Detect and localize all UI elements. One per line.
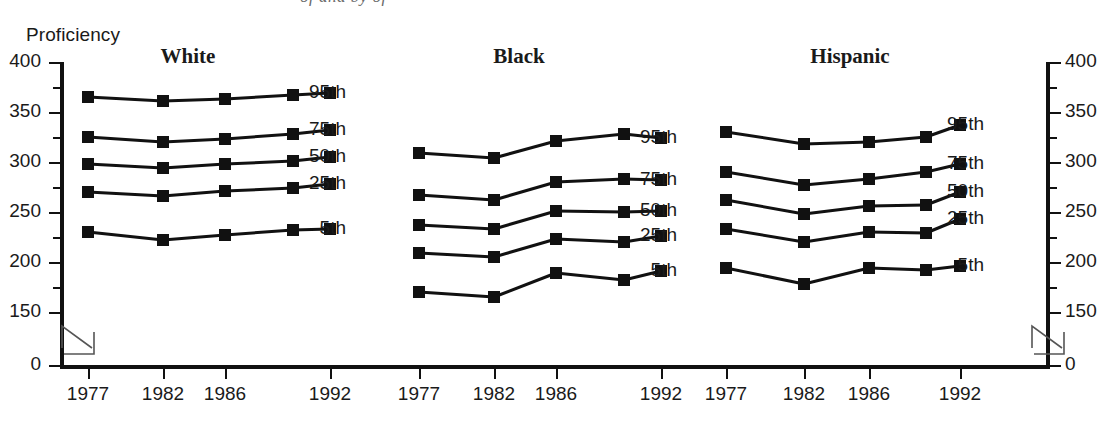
y-tick-label-left: 200 bbox=[0, 250, 41, 272]
x-tick bbox=[225, 369, 227, 379]
y-tick-major-right bbox=[1050, 62, 1061, 64]
data-point bbox=[82, 186, 94, 198]
x-tick-label: 1977 bbox=[53, 383, 123, 405]
panel-title-black: Black bbox=[419, 44, 619, 69]
y-tick-label-right: 200 bbox=[1065, 250, 1115, 272]
data-point bbox=[488, 223, 500, 235]
y-tick-label-right: 300 bbox=[1065, 150, 1115, 172]
data-point bbox=[82, 226, 94, 238]
data-point bbox=[550, 176, 562, 188]
x-tick bbox=[804, 369, 806, 379]
percentile-label-hispanic-75th: 75th bbox=[926, 152, 984, 174]
x-tick-label: 1986 bbox=[521, 383, 591, 405]
data-point bbox=[798, 138, 810, 150]
data-point bbox=[488, 291, 500, 303]
data-point bbox=[82, 131, 94, 143]
y-tick-label-left: 250 bbox=[0, 200, 41, 222]
data-point bbox=[720, 223, 732, 235]
y-tick-label-right: 150 bbox=[1065, 300, 1115, 322]
data-point bbox=[720, 194, 732, 206]
x-tick bbox=[494, 369, 496, 379]
y-tick-minor-left bbox=[53, 287, 60, 289]
y-tick-minor-left bbox=[53, 187, 60, 189]
data-point bbox=[157, 162, 169, 174]
y-tick-major-left bbox=[49, 262, 60, 264]
data-point bbox=[413, 247, 425, 259]
percentile-label-white-95th: 95th bbox=[288, 81, 346, 103]
y-tick-label-right: 350 bbox=[1065, 100, 1115, 122]
data-point bbox=[219, 93, 231, 105]
y-tick-major-left bbox=[49, 162, 60, 164]
data-point bbox=[219, 133, 231, 145]
x-tick bbox=[661, 369, 663, 379]
y-tick-minor-right bbox=[1050, 187, 1057, 189]
y-tick-label-left: 150 bbox=[0, 300, 41, 322]
data-point bbox=[863, 200, 875, 212]
percentile-label-hispanic-95th: 95th bbox=[926, 113, 984, 135]
data-point bbox=[413, 147, 425, 159]
axis-break-icon bbox=[1028, 322, 1068, 356]
data-point bbox=[863, 173, 875, 185]
x-tick bbox=[869, 369, 871, 379]
data-point bbox=[413, 219, 425, 231]
chart-root: of and by of Proficiency 400400350350300… bbox=[0, 0, 1115, 430]
percentile-label-black-75th: 75th bbox=[619, 168, 677, 190]
y-tick-minor-right bbox=[1050, 137, 1057, 139]
data-point bbox=[488, 251, 500, 263]
y-tick-major-left bbox=[49, 312, 60, 314]
data-point bbox=[488, 152, 500, 164]
percentile-label-hispanic-50th: 50th bbox=[926, 180, 984, 202]
y-tick-label-right: 400 bbox=[1065, 50, 1115, 72]
y-tick-minor-left bbox=[53, 137, 60, 139]
x-axis-baseline bbox=[60, 365, 1050, 369]
percentile-label-black-50th: 50th bbox=[619, 199, 677, 221]
data-point bbox=[798, 278, 810, 290]
y-tick-major-right bbox=[1050, 212, 1061, 214]
y-tick-major-right bbox=[1050, 365, 1061, 367]
percentile-label-hispanic-25th: 25th bbox=[926, 207, 984, 229]
percentile-label-white-5th: 5th bbox=[288, 217, 346, 239]
y-tick-label-left: 0 bbox=[0, 353, 41, 375]
percentile-label-black-5th: 5th bbox=[619, 259, 677, 281]
data-point bbox=[157, 95, 169, 107]
data-point bbox=[157, 234, 169, 246]
y-tick-major-left bbox=[49, 365, 60, 367]
x-tick bbox=[419, 369, 421, 379]
data-point bbox=[413, 286, 425, 298]
y-tick-major-left bbox=[49, 212, 60, 214]
x-tick-label: 1982 bbox=[128, 383, 198, 405]
x-tick-label: 1977 bbox=[691, 383, 761, 405]
y-axis-title: Proficiency bbox=[26, 24, 120, 46]
percentile-label-black-95th: 95th bbox=[619, 126, 677, 148]
clipped-caption: of and by of bbox=[300, 0, 820, 7]
x-tick-label: 1992 bbox=[295, 383, 365, 405]
data-point bbox=[863, 226, 875, 238]
data-point bbox=[219, 229, 231, 241]
y-tick-label-right: 0 bbox=[1065, 353, 1115, 375]
axis-break-icon bbox=[58, 322, 98, 356]
panel-title-white: White bbox=[88, 44, 288, 69]
data-point bbox=[720, 166, 732, 178]
data-point bbox=[720, 262, 732, 274]
data-point bbox=[157, 190, 169, 202]
data-point bbox=[82, 158, 94, 170]
x-tick-label: 1992 bbox=[925, 383, 995, 405]
percentile-label-white-50th: 50th bbox=[288, 145, 346, 167]
x-tick bbox=[163, 369, 165, 379]
data-point bbox=[798, 236, 810, 248]
data-point bbox=[720, 126, 732, 138]
y-tick-major-right bbox=[1050, 162, 1061, 164]
x-tick-label: 1986 bbox=[190, 383, 260, 405]
data-point bbox=[550, 205, 562, 217]
y-tick-major-right bbox=[1050, 262, 1061, 264]
data-point bbox=[550, 233, 562, 245]
percentile-label-black-25th: 25th bbox=[619, 224, 677, 246]
x-tick-label: 1982 bbox=[459, 383, 529, 405]
x-tick bbox=[330, 369, 332, 379]
y-tick-minor-left bbox=[53, 237, 60, 239]
x-tick-label: 1986 bbox=[834, 383, 904, 405]
percentile-label-white-75th: 75th bbox=[288, 118, 346, 140]
data-point bbox=[219, 185, 231, 197]
y-tick-minor-left bbox=[53, 87, 60, 89]
data-point bbox=[863, 136, 875, 148]
